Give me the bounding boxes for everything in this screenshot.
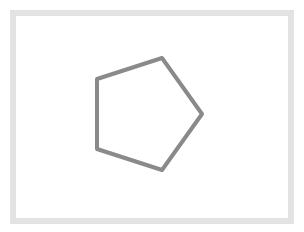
pentagon-shape — [97, 58, 202, 170]
diagram-canvas — [0, 0, 304, 232]
